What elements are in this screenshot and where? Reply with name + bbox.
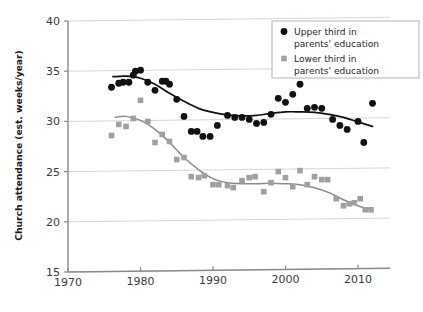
data-point xyxy=(231,114,238,121)
data-point xyxy=(344,126,351,133)
data-point xyxy=(297,81,304,88)
data-point xyxy=(202,173,208,179)
grid-line-20 xyxy=(68,218,390,222)
trend-line-series-1 xyxy=(115,116,371,209)
data-point xyxy=(268,180,274,186)
data-point xyxy=(145,119,151,125)
data-point xyxy=(319,177,325,183)
y-tick-label-25: 25 xyxy=(46,166,60,179)
legend-label-line2: parents' education xyxy=(294,66,379,76)
x-axis-line xyxy=(68,268,390,272)
data-point xyxy=(174,157,180,163)
grid-line-40 xyxy=(68,17,390,21)
data-point xyxy=(261,189,267,195)
y-axis-ticks: 152025303540 xyxy=(46,15,68,279)
data-point xyxy=(120,79,127,86)
data-point xyxy=(144,79,151,86)
data-point xyxy=(325,177,331,183)
data-points xyxy=(108,67,376,213)
legend-label-line2: parents' education xyxy=(294,39,379,49)
data-point xyxy=(239,178,245,184)
x-tick-label-2010: 2010 xyxy=(344,273,372,286)
data-point xyxy=(199,133,206,140)
data-point xyxy=(304,105,311,112)
x-axis-ticks: 19701980199020002010 xyxy=(54,265,372,289)
data-point xyxy=(268,111,275,118)
data-point xyxy=(360,139,367,146)
church-attendance-scatter-chart: 152025303540 19701980199020002010 Upper … xyxy=(0,0,423,312)
chart-legend: Upper third inparents' educationLower th… xyxy=(272,21,419,78)
data-point xyxy=(336,122,343,129)
data-point xyxy=(181,113,188,120)
data-point xyxy=(225,183,231,189)
data-point xyxy=(275,95,282,102)
y-tick-label-30: 30 xyxy=(46,115,60,128)
data-point xyxy=(216,182,222,188)
legend-marker-square xyxy=(281,56,287,62)
data-point xyxy=(214,122,221,129)
x-tick-label-2000: 2000 xyxy=(272,273,300,286)
x-tick-label-1980: 1980 xyxy=(127,275,155,288)
data-point xyxy=(369,100,376,107)
grid-line-25 xyxy=(68,168,390,172)
data-point xyxy=(166,81,173,88)
data-point xyxy=(188,128,195,135)
data-point xyxy=(329,116,336,123)
data-point xyxy=(224,112,231,119)
data-point xyxy=(196,175,202,181)
data-point xyxy=(116,122,122,128)
data-point xyxy=(239,114,246,121)
data-point xyxy=(130,116,136,122)
data-point xyxy=(181,155,187,161)
data-point xyxy=(362,207,368,213)
data-point xyxy=(341,203,347,209)
y-tick-label-20: 20 xyxy=(46,216,60,229)
data-point xyxy=(282,99,289,106)
data-point xyxy=(123,124,129,130)
data-point xyxy=(188,174,194,180)
data-point xyxy=(311,104,318,111)
data-point xyxy=(355,118,362,125)
data-point xyxy=(318,105,325,112)
data-point xyxy=(252,174,258,180)
data-point xyxy=(246,116,253,123)
data-point xyxy=(207,133,214,140)
data-point xyxy=(333,196,339,202)
y-tick-label-40: 40 xyxy=(46,15,60,28)
trend-lines xyxy=(113,76,373,210)
y-tick-label-35: 35 xyxy=(46,65,60,78)
data-point xyxy=(290,184,296,190)
data-point xyxy=(210,182,216,188)
data-point xyxy=(167,139,173,145)
data-point xyxy=(138,98,144,104)
data-point xyxy=(260,119,267,126)
data-point xyxy=(352,200,358,206)
data-point xyxy=(283,175,289,181)
data-point xyxy=(253,120,260,127)
data-point xyxy=(152,140,158,146)
data-point xyxy=(108,84,115,91)
data-point xyxy=(137,67,144,74)
data-point xyxy=(297,168,303,174)
data-point xyxy=(194,128,201,135)
legend-label-line1: Lower third in xyxy=(294,54,357,64)
x-tick-label-1970: 1970 xyxy=(54,276,82,289)
data-point xyxy=(289,91,296,98)
data-point xyxy=(173,96,180,103)
data-point xyxy=(231,185,237,191)
data-point xyxy=(125,79,132,86)
data-point xyxy=(246,175,252,181)
data-point xyxy=(368,207,374,213)
data-point xyxy=(312,174,318,180)
legend-marker-circle xyxy=(281,28,288,35)
data-point xyxy=(357,196,363,202)
data-point xyxy=(152,87,159,94)
chart-root: Church attendance (est. weeks/year) 1520… xyxy=(0,0,423,312)
data-point xyxy=(275,169,281,175)
data-point xyxy=(109,133,115,139)
data-point xyxy=(159,132,165,138)
data-point xyxy=(304,182,310,188)
data-point xyxy=(347,201,353,207)
x-tick-label-1990: 1990 xyxy=(199,274,227,287)
legend-label-line1: Upper third in xyxy=(294,27,357,37)
